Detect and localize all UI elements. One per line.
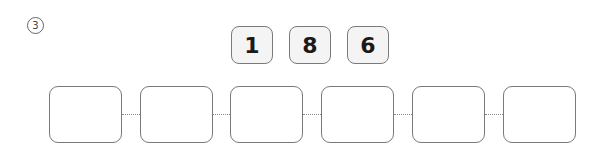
answer-box-3[interactable] bbox=[230, 86, 303, 143]
connector-dots bbox=[485, 114, 503, 115]
answer-box-5[interactable] bbox=[412, 86, 485, 143]
answer-box-6[interactable] bbox=[503, 86, 576, 143]
connector-dots bbox=[213, 114, 230, 115]
digit-tile-3: 6 bbox=[347, 26, 389, 64]
answer-box-1[interactable] bbox=[49, 86, 122, 143]
answer-box-2[interactable] bbox=[140, 86, 213, 143]
question-number: 3 bbox=[27, 17, 44, 34]
connector-dots bbox=[303, 114, 321, 115]
digit-tile-2: 8 bbox=[289, 26, 331, 64]
connector-dots bbox=[394, 114, 412, 115]
answer-box-4[interactable] bbox=[321, 86, 394, 143]
connector-dots bbox=[122, 114, 140, 115]
digit-tile-1: 1 bbox=[231, 26, 273, 64]
